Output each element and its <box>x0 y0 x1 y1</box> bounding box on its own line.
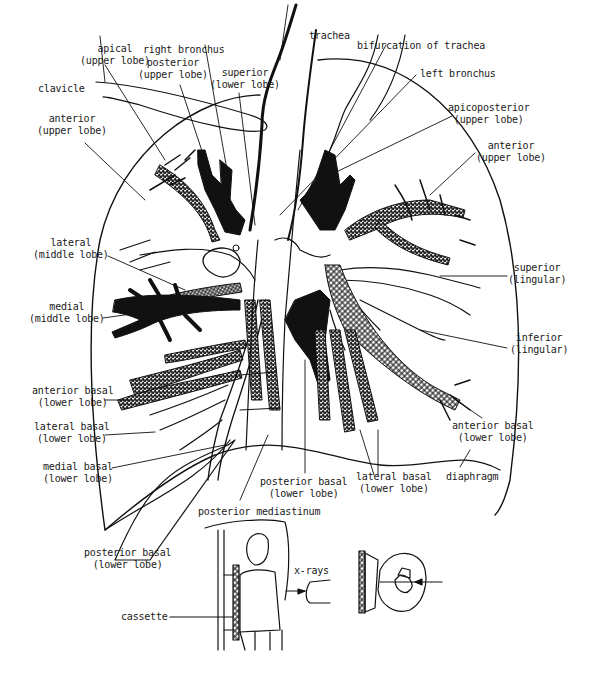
label-line: (middle lobe) <box>29 313 105 325</box>
label-line: (lower lobe) <box>84 559 171 571</box>
label-line: (lower lobe) <box>32 397 114 409</box>
label-line: superior <box>508 262 566 274</box>
label-line: (lower lobe) <box>210 79 280 91</box>
label-superior-lingular: superior (lingular) <box>508 262 566 286</box>
label-line: (upper lobe) <box>448 114 530 126</box>
label-cassette: cassette <box>121 611 168 623</box>
label-anterior-basal-left: anterior basal (lower lobe) <box>452 420 534 444</box>
label-line: (upper lobe) <box>476 152 546 164</box>
label-line: (lower lobe) <box>34 433 110 445</box>
label-line: (lingular) <box>510 344 568 356</box>
middle-lobe-black-branch <box>112 295 240 338</box>
label-posterior-basal-left: posterior basal (lower lobe) <box>84 547 171 571</box>
label-diaphragm: diaphragm <box>446 471 498 483</box>
label-lateral-basal-center: lateral basal (lower lobe) <box>356 471 432 495</box>
label-line: apical <box>80 43 150 55</box>
label-clavicle: clavicle <box>38 83 85 95</box>
label-line: (lower lobe) <box>43 473 113 485</box>
cross-section-illustration <box>359 551 442 613</box>
label-right-bronchus: right bronchus <box>143 44 225 56</box>
label-trachea: trachea <box>309 30 350 42</box>
label-left-bronchus: left bronchus <box>420 68 496 80</box>
label-line: (lower lobe) <box>452 432 534 444</box>
label-lateral-basal-right: lateral basal (lower lobe) <box>34 421 110 445</box>
label-line: (lower lobe) <box>260 488 347 500</box>
diaphragm-line <box>215 445 500 470</box>
label-posterior-basal-center: posterior basal (lower lobe) <box>260 476 347 500</box>
label-line: anterior <box>476 140 546 152</box>
label-line: superior <box>210 67 280 79</box>
label-posterior-upper-lobe: posterior (upper lobe) <box>138 57 208 81</box>
label-line: (middle lobe) <box>33 249 109 261</box>
label-line: (upper lobe) <box>37 125 107 137</box>
label-line: apicoposterior <box>448 102 530 114</box>
label-medial-basal: medial basal (lower lobe) <box>43 461 113 485</box>
label-line: posterior basal <box>260 476 347 488</box>
label-line: lateral basal <box>356 471 432 483</box>
label-x-rays: x-rays <box>294 565 329 577</box>
label-line: anterior basal <box>452 420 534 432</box>
label-line: medial basal <box>43 461 113 473</box>
label-line: (lingular) <box>508 274 566 286</box>
label-line: posterior <box>138 57 208 69</box>
label-line: posterior basal <box>84 547 171 559</box>
label-line: (upper lobe) <box>138 69 208 81</box>
label-superior-lower-lobe: superior (lower lobe) <box>210 67 280 91</box>
label-anterior-basal-right: anterior basal (lower lobe) <box>32 385 114 409</box>
label-anterior-upper-lobe-right: anterior (upper lobe) <box>37 113 107 137</box>
label-posterior-mediastinum: posterior mediastinum <box>198 506 320 518</box>
label-lateral-middle-lobe: lateral (middle lobe) <box>33 237 109 261</box>
label-line: anterior <box>37 113 107 125</box>
label-anterior-upper-lobe-left: anterior (upper lobe) <box>476 140 546 164</box>
patient-positioning-illustration <box>170 520 330 650</box>
label-line: inferior <box>510 332 568 344</box>
label-line: lateral basal <box>34 421 110 433</box>
label-line: lateral <box>33 237 109 249</box>
label-line: medial <box>29 301 105 313</box>
label-line: anterior basal <box>32 385 114 397</box>
label-medial-middle-lobe: medial (middle lobe) <box>29 301 105 325</box>
label-bifurcation-of-trachea: bifurcation of trachea <box>357 40 485 52</box>
bronchial-tree-diagram: apical (upper lobe) right bronchus poste… <box>0 0 594 691</box>
label-inferior-lingular: inferior (lingular) <box>510 332 568 356</box>
label-apicoposterior-upper-lobe: apicoposterior (upper lobe) <box>448 102 530 126</box>
label-line: (lower lobe) <box>356 483 432 495</box>
